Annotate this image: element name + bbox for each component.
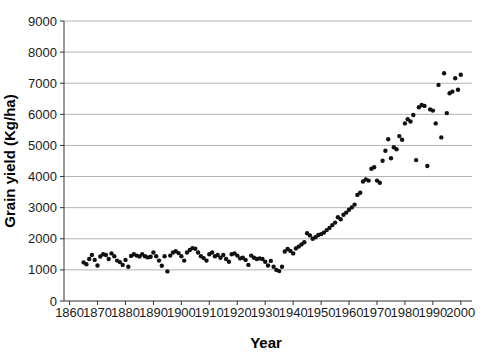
data-point (453, 76, 457, 80)
y-tick-label: 2000 (28, 231, 57, 246)
data-point (358, 191, 362, 195)
data-point (221, 253, 225, 257)
data-point (422, 104, 426, 108)
y-tick-label: 1000 (28, 262, 57, 277)
data-point (436, 83, 440, 87)
data-point (372, 165, 376, 169)
data-point (450, 89, 454, 93)
data-point (157, 258, 161, 262)
data-point (333, 220, 337, 224)
x-tick-label: 1950 (307, 305, 336, 320)
data-point (403, 121, 407, 125)
scatter-plot: 0100020003000400050006000700080009000186… (0, 0, 488, 357)
gridlines (64, 21, 472, 270)
data-point (87, 257, 91, 261)
data-point (442, 71, 446, 75)
data-point (266, 263, 270, 267)
data-point (90, 253, 94, 257)
x-tick-label: 1910 (195, 305, 224, 320)
data-point (386, 137, 390, 141)
data-point (291, 251, 295, 255)
data-point (193, 247, 197, 251)
data-points (81, 71, 463, 273)
data-point (121, 263, 125, 267)
data-point (380, 159, 384, 163)
data-point (308, 233, 312, 237)
data-point (151, 250, 155, 254)
data-point (160, 264, 164, 268)
y-tick-label: 4000 (28, 169, 57, 184)
data-point (397, 134, 401, 138)
data-point (434, 121, 438, 125)
data-point (227, 260, 231, 264)
data-point (182, 258, 186, 262)
data-point (154, 254, 158, 258)
x-tick-label: 1980 (390, 305, 419, 320)
y-tick-label: 3000 (28, 200, 57, 215)
data-point (394, 147, 398, 151)
y-tick-label: 8000 (28, 45, 57, 60)
data-point (439, 135, 443, 139)
data-point (84, 262, 88, 266)
data-point (162, 254, 166, 258)
data-point (352, 202, 356, 206)
data-point (459, 73, 463, 77)
x-tick-label: 2000 (446, 305, 475, 320)
data-point (196, 250, 200, 254)
x-tick-label: 1930 (251, 305, 280, 320)
x-axis-title: Year (250, 334, 282, 351)
data-point (112, 254, 116, 258)
data-point (431, 108, 435, 112)
x-tick-label: 1940 (279, 305, 308, 320)
x-tick-label: 1970 (363, 305, 392, 320)
y-tick-label: 7000 (28, 76, 57, 91)
data-point (378, 181, 382, 185)
data-point (165, 269, 169, 273)
data-point (277, 269, 281, 273)
data-point (411, 113, 415, 117)
data-point (148, 255, 152, 259)
data-point (107, 257, 111, 261)
data-point (280, 265, 284, 269)
data-point (204, 258, 208, 262)
data-point (104, 253, 108, 257)
data-point (389, 156, 393, 160)
y-tick-label: 6000 (28, 107, 57, 122)
data-point (243, 258, 247, 262)
data-point (366, 178, 370, 182)
data-point (210, 250, 214, 254)
data-point (95, 263, 99, 267)
data-point (263, 260, 267, 264)
x-tick-label: 1890 (139, 305, 168, 320)
grain-yield-chart: 0100020003000400050006000700080009000186… (0, 0, 488, 357)
data-point (93, 258, 97, 262)
x-tick-label: 1870 (83, 305, 112, 320)
x-tick-label: 1990 (418, 305, 447, 320)
data-point (445, 111, 449, 115)
y-tick-label: 9000 (28, 14, 57, 29)
x-tick-label: 1920 (223, 305, 252, 320)
data-point (123, 258, 127, 262)
data-point (339, 217, 343, 221)
data-point (269, 259, 273, 263)
data-point (383, 149, 387, 153)
tick-labels: 0100020003000400050006000700080009000186… (28, 14, 475, 321)
x-tick-label: 1860 (55, 305, 84, 320)
x-tick-label: 1880 (111, 305, 140, 320)
data-point (246, 263, 250, 267)
data-point (408, 119, 412, 123)
data-point (179, 254, 183, 258)
x-tick-label: 1960 (335, 305, 364, 320)
y-axis-title: Grain yield (Kg/ha) (1, 94, 18, 227)
data-point (400, 138, 404, 142)
data-point (126, 265, 130, 269)
data-point (456, 88, 460, 92)
data-point (414, 158, 418, 162)
x-tick-label: 1900 (167, 305, 196, 320)
data-point (425, 164, 429, 168)
y-tick-label: 5000 (28, 138, 57, 153)
data-point (302, 240, 306, 244)
